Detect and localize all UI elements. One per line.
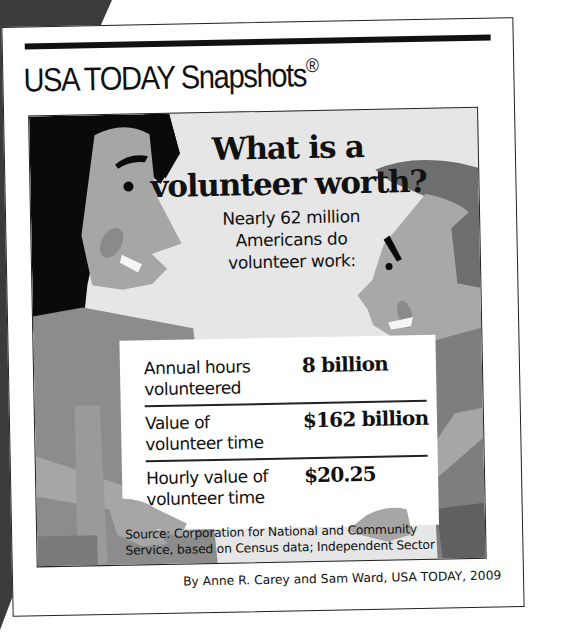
- header-rule: [25, 35, 491, 50]
- brand-title: USA TODAY Snapshots®: [23, 54, 319, 100]
- infographic-panel: What is a volunteer worth? Nearly 62 mil…: [28, 107, 487, 568]
- byline-credit: By Anne R. Carey and Sam Ward, USA TODAY…: [183, 568, 501, 588]
- brand-text: USA TODAY Snapshots: [23, 56, 306, 98]
- snapshot-clipping: USA TODAY Snapshots®: [1, 17, 524, 617]
- source-note: Source: Corporation for National and Com…: [125, 520, 471, 559]
- registered-mark: ®: [306, 54, 319, 76]
- hands-illustration: [29, 108, 486, 567]
